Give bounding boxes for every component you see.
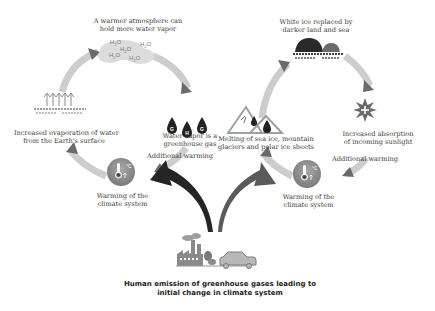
label-line: Human emission of greenhouse gases leadi… [120, 280, 320, 289]
svg-text:°C: °C [126, 163, 132, 169]
label-line: hold more water vapor [88, 25, 188, 33]
arc-melt-to-ice [262, 64, 288, 118]
label-evaporation: Increased evaporation of water from the … [14, 129, 114, 145]
label-line: initial change in climate system [120, 289, 320, 298]
label-water-vapor-ghg: Water vapor is a greenhouse gas [160, 132, 220, 148]
h2o-molecule: H2O [120, 46, 131, 54]
label-additional-warming-right: Additional warming [330, 155, 400, 163]
label-line: Increased evaporation of water [14, 129, 114, 137]
label-line: Melting of sea ice, mountain [216, 135, 316, 143]
h2o-molecule: H2O [109, 52, 120, 60]
label-line: glaciers and polar ice sheets [216, 143, 316, 151]
label-warming-climate-left: Warming of the climate system [95, 192, 150, 208]
label-warmer-atmosphere: A warmer atmosphere can hold more water … [88, 17, 188, 33]
thermometer-circle-right: °C [293, 160, 321, 188]
label-additional-warming-left: Additional warming [145, 152, 215, 160]
evaporation-icon [34, 93, 86, 113]
label-line: Warming of the [95, 192, 150, 200]
svg-text:°C: °C [312, 165, 318, 171]
label-line: Water vapor is a [160, 132, 220, 140]
arc-ice-to-sun [345, 56, 370, 86]
label-line: from the Earth's surface [14, 137, 114, 145]
label-human-emission: Human emission of greenhouse gases leadi… [120, 280, 320, 297]
label-melting-ice: Melting of sea ice, mountain glaciers an… [216, 135, 316, 151]
label-line: Warming of the [281, 193, 336, 201]
label-line: A warmer atmosphere can [88, 17, 188, 25]
label-increased-absorption: Increased absorption of incoming sunligh… [338, 130, 418, 146]
label-line: climate system [281, 201, 336, 209]
factory-icon [177, 240, 203, 266]
label-line: climate system [95, 200, 150, 208]
thermometer-circle-left: °C [107, 158, 135, 186]
label-line: White ice replaced by [276, 18, 356, 26]
label-line: of incoming sunlight [338, 138, 418, 146]
arc-warming-to-evap [70, 150, 106, 176]
gray-emission-arrow [218, 162, 276, 232]
ice-crack [241, 116, 246, 123]
label-line: greenhouse gas [160, 140, 220, 148]
sun-burst-icon [353, 98, 377, 122]
h2o-molecule: H2O [129, 55, 140, 63]
h2o-molecule: H2O [140, 41, 151, 49]
label-white-ice: White ice replaced by darker land and se… [276, 18, 356, 34]
dark-emission-arrow [150, 160, 213, 232]
label-line: darker land and sea [276, 26, 356, 34]
label-line: Increased absorption [338, 130, 418, 138]
label-warming-climate-right: Warming of the climate system [281, 193, 336, 209]
dark-land-icon [293, 38, 343, 58]
